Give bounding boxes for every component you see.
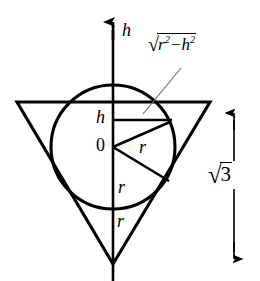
height-measure-label: √3: [205, 161, 235, 189]
radicand-operator: −: [170, 35, 182, 54]
geometry-figure: h h 0 r r r √r2−h2 √3: [0, 0, 260, 281]
origin-label: 0: [96, 136, 105, 154]
radicand-base-2: h: [182, 35, 191, 54]
radius-label-upper: r: [139, 138, 146, 156]
radicand-sqrt3: 3: [220, 162, 233, 185]
radical-group: √r2−h2: [148, 33, 196, 54]
radius-label-middle: r: [118, 178, 125, 196]
chord-length-expression: √r2−h2: [148, 33, 196, 54]
radicand-base-1: r: [158, 35, 165, 54]
radicand: r2−h2: [157, 33, 196, 53]
radius-label-lower: r: [117, 212, 124, 230]
radicand-exponent-2: 2: [190, 34, 195, 45]
geometry-canvas: [0, 0, 260, 281]
axis-label-h: h: [122, 21, 131, 39]
radical-group-sqrt3: √3: [208, 162, 232, 188]
segment-label-h: h: [96, 108, 105, 126]
